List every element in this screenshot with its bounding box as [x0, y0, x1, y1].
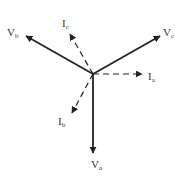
label-va: Va — [91, 158, 103, 172]
phasor-vb-line — [26, 36, 93, 74]
phasor-diagram: Va Vb Vc Ia Ib Ic — [0, 0, 181, 181]
phasor-vc-line — [93, 36, 160, 74]
phasor-ib-line — [72, 74, 93, 113]
label-vb: Vb — [7, 26, 19, 40]
label-vc: Vc — [163, 26, 174, 40]
label-ia: Ia — [148, 70, 156, 84]
label-ib: Ib — [58, 115, 66, 129]
label-ic: Ic — [62, 17, 69, 31]
